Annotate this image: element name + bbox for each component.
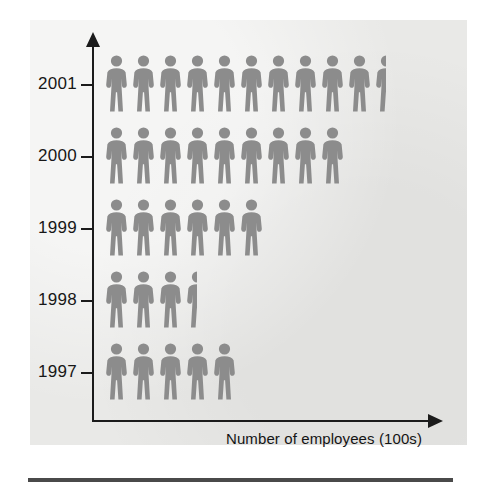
person-icon xyxy=(157,270,184,328)
y-axis-tick-label: 1999 xyxy=(38,218,77,238)
row-figures xyxy=(103,126,346,184)
pictogram-row: 2000 xyxy=(92,126,346,188)
person-icon xyxy=(103,270,130,328)
y-axis-tick xyxy=(81,300,93,302)
pictogram-row: 2001 xyxy=(92,54,386,116)
person-icon xyxy=(184,54,211,112)
y-axis-tick-label: 2000 xyxy=(38,146,77,166)
y-axis-tick xyxy=(81,228,93,230)
person-icon xyxy=(130,198,157,256)
y-axis-tick-label: 2001 xyxy=(38,74,77,94)
person-icon xyxy=(157,126,184,184)
person-icon xyxy=(103,342,130,400)
y-axis-tick-label: 1998 xyxy=(38,290,77,310)
person-icon xyxy=(211,54,238,112)
x-axis-line xyxy=(92,420,432,422)
row-figures xyxy=(103,198,265,256)
y-axis-tick xyxy=(81,372,93,374)
row-figures xyxy=(103,54,386,112)
person-icon xyxy=(292,54,319,112)
person-icon xyxy=(238,54,265,112)
person-icon-half xyxy=(373,54,386,112)
y-axis-tick xyxy=(81,84,93,86)
person-icon xyxy=(103,54,130,112)
arrow-up-icon xyxy=(86,32,100,47)
person-icon xyxy=(157,342,184,400)
x-axis-label: Number of employees (100s) xyxy=(226,430,422,447)
plot-area: 20012000199919981997 Number of employees… xyxy=(30,20,467,445)
person-icon xyxy=(130,270,157,328)
person-icon xyxy=(157,198,184,256)
person-icon xyxy=(130,126,157,184)
person-icon xyxy=(211,198,238,256)
y-axis-tick xyxy=(81,156,93,158)
person-icon xyxy=(319,126,346,184)
person-icon xyxy=(346,54,373,112)
person-icon xyxy=(130,342,157,400)
pictogram-chart-panel: 20012000199919981997 Number of employees… xyxy=(30,20,467,445)
person-icon xyxy=(184,342,211,400)
person-icon xyxy=(211,342,238,400)
person-icon xyxy=(319,54,346,112)
person-icon-half xyxy=(184,270,197,328)
person-icon xyxy=(265,126,292,184)
pictogram-row: 1997 xyxy=(92,342,238,404)
person-icon xyxy=(184,126,211,184)
person-icon xyxy=(265,54,292,112)
person-icon xyxy=(211,126,238,184)
person-icon xyxy=(103,126,130,184)
person-icon xyxy=(103,198,130,256)
row-figures xyxy=(103,342,238,400)
person-icon xyxy=(157,54,184,112)
person-icon xyxy=(238,198,265,256)
arrow-right-icon xyxy=(428,414,443,428)
page-bottom-rule xyxy=(28,478,453,482)
pictogram-row: 1999 xyxy=(92,198,265,260)
person-icon xyxy=(238,126,265,184)
pictogram-row: 1998 xyxy=(92,270,197,332)
y-axis-tick-label: 1997 xyxy=(38,362,77,382)
row-figures xyxy=(103,270,197,328)
person-icon xyxy=(184,198,211,256)
person-icon xyxy=(130,54,157,112)
person-icon xyxy=(292,126,319,184)
